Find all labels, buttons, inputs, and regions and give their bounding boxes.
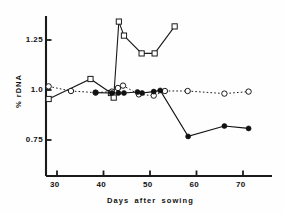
series-line [49, 22, 175, 99]
y-axis-label: % rDNA [14, 74, 23, 108]
data-point-open-circle [246, 89, 251, 94]
x-tick-label: 60 [190, 180, 200, 189]
series-line [96, 90, 249, 136]
data-point-open-circle [185, 88, 190, 93]
data-point-filled-circle [246, 126, 251, 131]
series-group [46, 19, 251, 139]
data-point-open-circle [120, 83, 125, 88]
y-tick-label: 1.25 [26, 35, 43, 44]
data-point-filled-circle [151, 89, 156, 94]
data-point-filled-circle [121, 91, 126, 96]
data-point-filled-circle [140, 91, 145, 96]
data-point-open-square [46, 96, 51, 101]
data-point-filled-circle [93, 90, 98, 95]
data-point-filled-circle [186, 134, 191, 139]
data-point-open-circle [222, 91, 227, 96]
x-tick-label: 30 [50, 180, 60, 189]
x-axis-label: Days after sowing [107, 196, 194, 205]
chart-figure: 0.751.01.253040506070 % rDNA Days after … [0, 0, 284, 213]
axis-group [46, 16, 272, 176]
x-tick-label: 40 [97, 180, 107, 189]
data-point-open-circle [115, 85, 120, 90]
data-point-open-square [139, 51, 144, 56]
data-point-filled-circle [135, 90, 140, 95]
series-line [49, 86, 249, 96]
data-point-open-square [152, 51, 157, 56]
y-tick-label: 1.0 [31, 85, 43, 94]
data-point-filled-circle [109, 91, 114, 96]
y-tick-label: 0.75 [26, 135, 43, 144]
x-tick-label: 50 [143, 180, 153, 189]
data-point-open-circle [162, 88, 167, 93]
data-point-open-square [121, 33, 126, 38]
data-point-open-square [116, 19, 121, 24]
data-point-filled-circle [222, 124, 227, 129]
data-point-open-square [88, 76, 93, 81]
data-point-open-circle [68, 88, 73, 93]
x-tick-label: 70 [236, 180, 246, 189]
data-point-open-circle [46, 84, 51, 89]
data-point-filled-circle [116, 91, 121, 96]
data-point-filled-circle [158, 88, 163, 93]
data-point-open-square [172, 24, 177, 29]
